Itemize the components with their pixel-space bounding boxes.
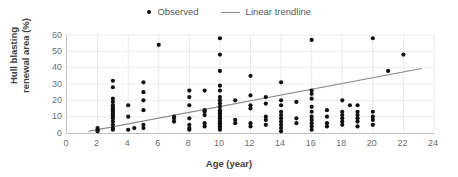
data-point (371, 36, 375, 40)
legend-label-observed: Observed (157, 7, 198, 17)
data-point (371, 110, 375, 114)
data-point (279, 103, 283, 107)
data-point (111, 85, 115, 89)
data-point (340, 98, 344, 102)
data-point (111, 97, 115, 101)
data-point (233, 98, 237, 102)
x-tick-label: 6 (146, 139, 170, 148)
data-point (141, 123, 145, 127)
legend-item-observed: Observed (147, 7, 199, 17)
data-point (310, 97, 314, 101)
data-point (294, 121, 298, 125)
data-point (325, 115, 329, 119)
data-point (141, 90, 145, 94)
y-tick-label: 0 (40, 129, 62, 138)
plot-canvas (67, 35, 434, 133)
data-point (279, 98, 283, 102)
x-tick-label: 2 (85, 139, 109, 148)
data-point (264, 95, 268, 99)
data-point (187, 116, 191, 120)
data-point (279, 80, 283, 84)
data-point (233, 118, 237, 122)
x-tick-label: 10 (207, 139, 231, 148)
y-tick-label: 50 (40, 47, 62, 56)
data-point (355, 124, 359, 128)
x-tick-label: 12 (238, 139, 262, 148)
scatter-chart: Observed Linear trendline Hull blastingr… (0, 0, 458, 177)
y-tick-label: 10 (40, 112, 62, 121)
data-point (203, 88, 207, 92)
x-axis-ticks: 024681012141618202224 (0, 139, 458, 153)
data-point (310, 38, 314, 42)
data-point (126, 103, 130, 107)
data-point (401, 53, 405, 57)
y-tick-label: 30 (40, 80, 62, 89)
data-point (218, 36, 222, 40)
chart-legend: Observed Linear trendline (0, 3, 458, 21)
plot-area (66, 35, 434, 134)
x-tick-label: 18 (329, 139, 353, 148)
x-tick-label: 24 (421, 139, 445, 148)
x-tick-label: 4 (115, 139, 139, 148)
data-point (248, 103, 252, 107)
data-point (187, 95, 191, 99)
data-point (371, 123, 375, 127)
data-point (187, 103, 191, 107)
data-point (355, 110, 359, 114)
data-point (141, 98, 145, 102)
x-axis-title: Age (year) (0, 158, 458, 169)
data-point (264, 102, 268, 106)
y-tick-label: 60 (40, 31, 62, 40)
x-tick-label: 22 (390, 139, 414, 148)
data-point (248, 74, 252, 78)
data-point (310, 115, 314, 119)
data-point (248, 93, 252, 97)
y-tick-label: 20 (40, 96, 62, 105)
x-tick-label: 14 (268, 139, 292, 148)
data-point (141, 108, 145, 112)
data-point (355, 103, 359, 107)
data-point (371, 115, 375, 119)
legend-dot-icon (147, 10, 152, 15)
data-point (95, 126, 99, 130)
legend-line-icon (221, 12, 240, 13)
data-point (132, 126, 136, 130)
legend-item-trendline: Linear trendline (221, 7, 312, 17)
data-point (325, 121, 329, 125)
data-point (386, 69, 390, 73)
data-point (279, 110, 283, 114)
data-point (218, 84, 222, 88)
gridlines (67, 35, 434, 133)
data-point (325, 108, 329, 112)
data-point (126, 128, 130, 132)
data-point (294, 116, 298, 120)
data-point (264, 115, 268, 119)
y-axis-title-line2: renewal area (%) (19, 18, 30, 93)
data-point (187, 88, 191, 92)
data-point (218, 88, 222, 92)
data-point (126, 115, 130, 119)
data-point (187, 123, 191, 127)
data-point (218, 95, 222, 99)
data-point (310, 110, 314, 114)
data-point (111, 79, 115, 83)
data-point (218, 69, 222, 73)
data-point (310, 105, 314, 109)
data-point (340, 110, 344, 114)
x-tick-label: 0 (54, 139, 78, 148)
data-point (141, 80, 145, 84)
x-tick-label: 20 (360, 139, 384, 148)
legend-label-trendline: Linear trendline (246, 7, 312, 17)
data-point (203, 108, 207, 112)
data-point (248, 121, 252, 125)
x-tick-label: 16 (299, 139, 323, 148)
data-point (203, 121, 207, 125)
x-tick-label: 8 (176, 139, 200, 148)
data-point (218, 53, 222, 57)
data-point (294, 100, 298, 104)
data-point (172, 115, 176, 119)
data-point (157, 43, 161, 47)
y-axis-title: Hull blastingrenewal area (%) (8, 1, 31, 111)
y-axis-title-line1: Hull blasting (8, 27, 19, 84)
data-point (264, 123, 268, 127)
